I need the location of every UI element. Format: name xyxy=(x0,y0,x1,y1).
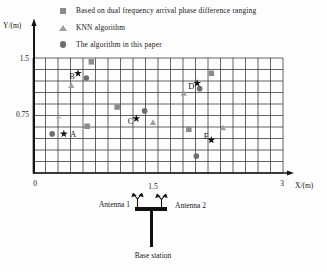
y-tick-label: 1.5 xyxy=(5,54,29,63)
marker-star xyxy=(193,79,201,86)
antenna-icon xyxy=(131,192,144,208)
antenna1-label: Antenna 1 xyxy=(95,200,130,209)
legend: Based on dual frequency arrival phase di… xyxy=(57,2,256,53)
circle-marker-icon xyxy=(60,41,67,48)
y-axis-label: Y/(m) xyxy=(3,21,21,30)
marker-square xyxy=(186,127,192,133)
legend-item-circle: The algorithm in this paper xyxy=(57,36,256,53)
y-axis-arrow-icon xyxy=(31,19,36,27)
marker-triangle xyxy=(68,83,74,89)
marker-square xyxy=(209,71,215,77)
base-station-mast xyxy=(150,210,154,247)
marker-square xyxy=(114,104,120,110)
point-label: A xyxy=(70,129,77,139)
marker-circle xyxy=(194,153,200,159)
antenna2-label: Antenna 2 xyxy=(175,201,206,210)
marker-square xyxy=(89,59,95,64)
marker-triangle xyxy=(150,119,156,125)
marker-triangle xyxy=(181,90,187,96)
legend-label: KNN algorithm xyxy=(76,23,125,32)
marker-circle xyxy=(49,131,55,137)
base-station-label: Base station xyxy=(128,251,178,260)
point-label: D xyxy=(188,81,194,91)
triangle-marker-icon xyxy=(59,25,67,31)
legend-item-triangle: KNN algorithm xyxy=(57,19,256,36)
point-label: B xyxy=(69,71,75,81)
marker-triangle xyxy=(56,113,62,119)
x-axis-label: X/(m) xyxy=(295,181,313,190)
y-tick-label: 0.75 xyxy=(4,110,29,119)
point-label: E xyxy=(204,131,209,141)
legend-item-square: Based on dual frequency arrival phase di… xyxy=(57,2,256,19)
square-marker-icon xyxy=(60,8,66,14)
x-tick-label: 3 xyxy=(276,179,288,188)
marker-circle xyxy=(197,86,203,92)
marker-square xyxy=(84,123,90,129)
legend-label: Based on dual frequency arrival phase di… xyxy=(76,6,256,15)
marker-circle xyxy=(142,108,148,114)
figure: ABCDE Based on dual frequency arrival ph… xyxy=(0,0,327,272)
point-label: C xyxy=(128,116,134,126)
x-tick-label: 1.5 xyxy=(141,182,165,191)
marker-star xyxy=(74,69,82,76)
marker-circle xyxy=(84,75,90,81)
x-tick-label: 0 xyxy=(29,179,41,188)
legend-label: The algorithm in this paper xyxy=(76,40,162,49)
antenna-icon xyxy=(155,193,168,208)
marker-star xyxy=(60,130,68,137)
x-axis-arrow-icon xyxy=(287,170,294,175)
